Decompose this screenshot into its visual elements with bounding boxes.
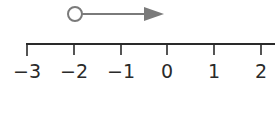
axis	[26, 43, 275, 56]
tick-label: −3	[12, 60, 42, 82]
tick-label: −2	[59, 60, 89, 82]
arrow-head-icon	[144, 7, 164, 21]
tick-label: 0	[152, 60, 182, 82]
tick-label: 2	[246, 60, 276, 82]
number-line-diagram	[0, 0, 276, 113]
solution-ray	[68, 7, 164, 21]
tick-label: −1	[106, 60, 136, 82]
tick-label: 1	[199, 60, 229, 82]
open-circle-endpoint	[68, 7, 82, 21]
